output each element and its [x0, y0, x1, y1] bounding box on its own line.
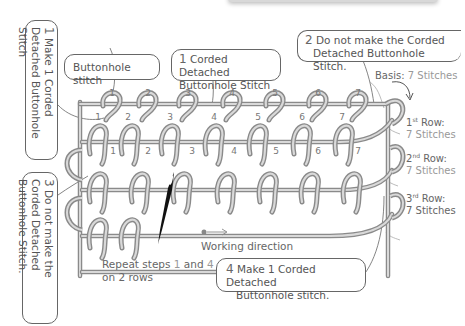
row1-num: 4: [211, 112, 217, 122]
row1-num: 7: [339, 112, 345, 122]
callout-step-2: 2 Do not make the Corded Detached Button…: [297, 30, 461, 62]
corded-line2: Buttonhole Stitch: [179, 79, 273, 92]
row2-num: 6: [315, 146, 321, 156]
needle-icon: [158, 172, 174, 244]
row2-num: 2: [145, 146, 151, 156]
repeat-line2: on 2 rows: [102, 271, 214, 284]
row-1-value: 7 Stitches: [406, 129, 456, 141]
repeat-and: and: [184, 258, 204, 270]
callout-step-4: 4 Make 1 Corded Detached Buttonhole stit…: [216, 258, 366, 292]
corded-line1: Corded Detached: [179, 53, 230, 78]
row-2-value: 7 Stitches: [406, 165, 456, 177]
callout-buttonhole-stitch: Buttonhole stitch: [64, 54, 160, 80]
row-2-label: 2nd Row: 7 Stitches: [406, 150, 456, 177]
row-1-ordinal-suffix: st: [412, 116, 417, 123]
row2-num: 5: [273, 146, 279, 156]
row1-num: 6: [299, 112, 305, 122]
corded-number: 1: [179, 52, 187, 66]
basis-value: 7 Stitches: [408, 70, 458, 81]
repeat-step-a: 1: [174, 258, 181, 270]
step-4-number: 4: [226, 262, 234, 276]
row3-loops: [89, 220, 138, 258]
step-1-number: 1: [42, 27, 56, 35]
row1-num: 3: [167, 112, 173, 122]
basis-num: 7: [355, 88, 361, 98]
basis-num: 2: [145, 88, 151, 98]
basis-num: 1: [109, 88, 115, 98]
row-3-title: Row:: [422, 193, 446, 204]
row-1-label: 1st Row: 7 Stitches: [406, 114, 456, 141]
repeat-steps-note: Repeat steps 1 and 4 on 2 rows: [102, 258, 214, 284]
row1-num: 5: [255, 112, 261, 122]
row1-num: 1: [95, 112, 101, 122]
row1-loops: [89, 126, 352, 164]
step-3-number: 3: [42, 179, 56, 187]
row-3-ordinal-suffix: rd: [412, 192, 418, 199]
row2-num: 4: [231, 146, 237, 156]
step-2-line1: Do not make the Corded: [316, 34, 445, 46]
row1-num: 2: [125, 112, 131, 122]
row2-num: 1: [110, 146, 116, 156]
repeat-step-b: 4: [207, 258, 214, 270]
step-2-number: 2: [305, 33, 313, 47]
row-3-value: 7 Stitches: [406, 205, 456, 217]
callout-step-1: 1 Make 1 Corded Detached Buttonhole Stit…: [25, 20, 58, 160]
basis-prefix: Basis:: [375, 70, 405, 81]
repeat-prefix: Repeat steps: [102, 258, 170, 270]
step-4-line2: Buttonhole stitch.: [226, 289, 356, 302]
row-2-title: Row:: [423, 153, 447, 164]
row-2-ordinal-suffix: nd: [412, 152, 420, 159]
row2-num: 7: [355, 146, 361, 156]
row2-loops: [89, 174, 360, 212]
step-4-line1: Make 1 Corded Detached: [226, 263, 316, 288]
row-3-label: 3rd Row: 7 Stitches: [406, 190, 456, 217]
turn-arrow-icon: [392, 82, 413, 100]
step-3-text: Do not make the Corded Detached Buttonho…: [17, 179, 55, 278]
basis-num: 6: [315, 88, 321, 98]
callout-step-3: 3 Do not make the Corded Detached Button…: [22, 172, 58, 324]
callout-corded-detached: 1 Corded Detached Buttonhole Stitch: [171, 49, 281, 81]
row-1-title: Row:: [421, 117, 445, 128]
row2-num: 3: [189, 146, 195, 156]
working-direction-label: Working direction: [201, 240, 293, 252]
basis-label: Basis: 7 Stitches: [375, 70, 457, 82]
